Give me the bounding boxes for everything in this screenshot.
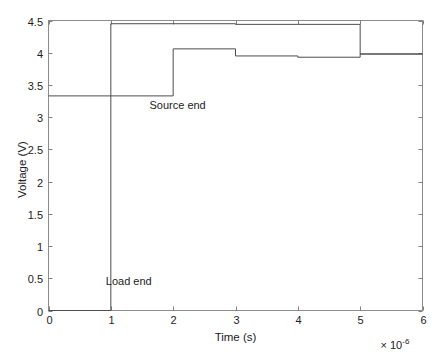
figure-container: 00.511.522.533.544.5 0123456 Time (s) Vo… (0, 0, 438, 361)
caption-strip (0, 349, 438, 361)
trace-load-end (49, 24, 423, 311)
data-traces (49, 24, 423, 311)
x-axis-title: Time (s) (215, 331, 257, 343)
x-tick-label: 5 (357, 315, 363, 326)
x-tick-label: 1 (108, 315, 114, 326)
y-tick-label: 0.5 (6, 273, 43, 284)
y-tick-label: 4 (6, 48, 43, 59)
x-tick-label: 3 (233, 315, 239, 326)
y-tick-label: 4.5 (6, 16, 43, 27)
x-tick-label: 4 (295, 315, 301, 326)
annotation-load-end: Load end (106, 275, 152, 287)
y-tick-label: 0 (6, 306, 43, 317)
x-tick-label: 6 (420, 315, 426, 326)
y-tick-label: 1 (6, 241, 43, 252)
x-axis-ticks (50, 21, 424, 311)
x-tick-label: 0 (46, 315, 52, 326)
y-tick-label: 1.5 (6, 209, 43, 220)
exponent-power: -6 (402, 337, 409, 346)
x-tick-label: 2 (170, 315, 176, 326)
y-tick-label: 3.5 (6, 80, 43, 91)
annotation-source-end: Source end (149, 99, 205, 111)
y-tick-label: 3 (6, 112, 43, 123)
y-axis-ticks (49, 22, 423, 312)
voltage-vs-time-chart (0, 0, 438, 361)
trace-source-end (49, 49, 423, 96)
axes-box (49, 21, 423, 311)
y-axis-title: Voltage (V) (16, 141, 28, 198)
